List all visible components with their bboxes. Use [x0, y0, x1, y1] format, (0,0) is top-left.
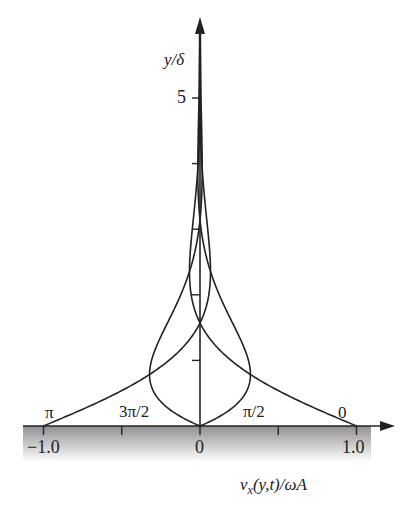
- phase-label-0: 0: [338, 403, 347, 423]
- y-tick-label-5: 5: [177, 87, 186, 108]
- y-axis-label: y/δ: [164, 50, 184, 70]
- phase-label-pi: π: [45, 403, 54, 423]
- x-tick-label-0: 0: [195, 437, 204, 458]
- profile-curve-π/2: [198, 32, 251, 426]
- phase-label-3pi2: 3π/2: [119, 402, 149, 422]
- x-tick-label-neg1: −1.0: [27, 437, 60, 458]
- phase-label-pi2: π/2: [243, 402, 265, 422]
- y-axis-arrow-icon: [195, 17, 205, 34]
- x-tick-label-1: 1.0: [342, 437, 365, 458]
- x-axis-arrow-icon: [380, 421, 395, 431]
- x-axis-label: vx(y,t)/ωA: [240, 475, 307, 498]
- x-axis-label-rest: (y,t)/ωA: [253, 475, 307, 494]
- x-axis-label-v: v: [240, 475, 248, 494]
- profile-curve-0: [190, 32, 357, 426]
